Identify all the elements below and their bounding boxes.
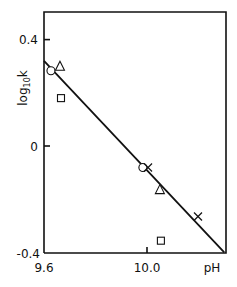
y-axis-label: log10k bbox=[16, 70, 32, 105]
y-label-log: log bbox=[16, 87, 30, 105]
xtick-label-9.6: 9.6 bbox=[34, 261, 53, 275]
xtick-label-10.0: 10.0 bbox=[134, 261, 161, 275]
ytick-label-neg0.4: -0.4 bbox=[17, 247, 40, 261]
triangle-marker bbox=[155, 185, 164, 194]
ytick-label-0.4: 0.4 bbox=[19, 33, 38, 47]
cross-marker bbox=[194, 212, 202, 220]
ytick-label-0: 0 bbox=[30, 140, 38, 154]
x-axis-label: pH bbox=[204, 261, 221, 275]
square-marker bbox=[57, 95, 64, 102]
regression-line bbox=[44, 61, 224, 253]
circle-marker bbox=[47, 67, 55, 75]
y-label-sub: 10 bbox=[23, 77, 32, 87]
fit-line bbox=[44, 61, 224, 253]
y-label-k: k bbox=[16, 70, 30, 77]
svg-text:log10k: log10k bbox=[16, 70, 32, 105]
square-marker bbox=[157, 237, 164, 244]
axis-ticks bbox=[44, 40, 147, 253]
chart: 0.4 0 -0.4 9.6 10.0 pH log10k bbox=[0, 0, 237, 287]
triangle-marker bbox=[55, 61, 64, 70]
